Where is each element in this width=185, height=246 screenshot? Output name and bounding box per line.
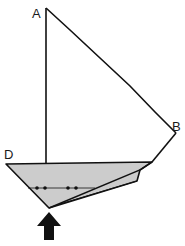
point-label-b: B bbox=[172, 120, 181, 133]
centerline-dot bbox=[74, 186, 78, 190]
sail-edge-b-deck bbox=[152, 133, 176, 162]
hull-shape bbox=[6, 162, 152, 208]
point-label-d: D bbox=[4, 148, 13, 161]
centerline-dot bbox=[66, 186, 70, 190]
centerline-dot bbox=[35, 186, 39, 190]
centerline-dot bbox=[43, 186, 47, 190]
force-arrow-icon bbox=[37, 212, 61, 240]
sail-edge-ab bbox=[46, 8, 176, 133]
sailboat-figure bbox=[0, 0, 185, 246]
point-label-a: A bbox=[32, 7, 41, 20]
